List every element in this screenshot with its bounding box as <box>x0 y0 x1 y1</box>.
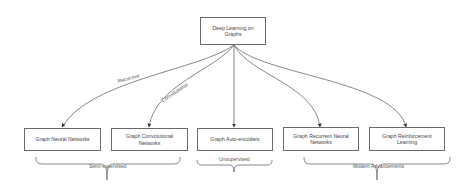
node-graph-neural-networks: Graph Neural Networks <box>24 128 101 151</box>
group-label-semi-supervised: Semi-supervised <box>89 163 126 169</box>
group-label-unsupervised: Unsupervised <box>219 156 250 162</box>
group-label-modern-advancements: Modern Advancements <box>353 163 404 169</box>
edge-to-graph-convolutional-networks <box>149 45 234 127</box>
edge-to-graph-neural-networks <box>62 45 234 127</box>
node-graph-auto-encoders: Graph Auto-encoders <box>197 128 273 151</box>
node-label: Graph Auto-encoders <box>210 136 259 143</box>
node-graph-recurrent-neural-networks: Graph Recurrent Neural Networks <box>283 127 359 151</box>
node-label: Graph Reinforcement Learning <box>373 133 441 146</box>
node-label: Graph Convolutional Networks <box>115 133 184 146</box>
node-label: Graph Neural Networks <box>35 136 89 143</box>
diagram-canvas: Deep Learning on Graphs Graph Neural Net… <box>0 0 472 188</box>
edge-to-graph-recurrent-neural-networks <box>234 45 320 127</box>
root-node: Deep Learning on Graphs <box>200 17 266 45</box>
node-graph-convolutional-networks: Graph Convolutional Networks <box>111 128 188 151</box>
node-label: Graph Recurrent Neural Networks <box>292 133 350 146</box>
root-node-label: Deep Learning on Graphs <box>204 25 262 38</box>
edge-to-graph-reinforcement-learning <box>234 45 406 127</box>
node-graph-reinforcement-learning: Graph Reinforcement Learning <box>369 127 445 151</box>
